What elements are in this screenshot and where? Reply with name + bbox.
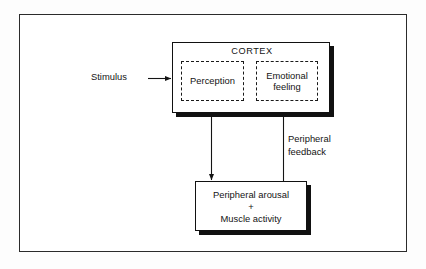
perception-label: Perception — [190, 75, 235, 87]
perception-box: Perception — [181, 61, 244, 101]
diagram-root: CORTEX Perception Emotional feeling Peri… — [0, 0, 426, 269]
plus-operator: + — [248, 201, 253, 212]
emotional-feeling-label: Emotional feeling — [266, 70, 308, 93]
peripheral-arousal-label: Peripheral arousal — [213, 188, 289, 201]
stimulus-label: Stimulus — [91, 71, 127, 83]
peripheral-feedback-label: Peripheral feedback — [288, 133, 331, 158]
cortex-label: CORTEX — [173, 46, 331, 57]
emotional-feeling-box: Emotional feeling — [256, 61, 318, 101]
peripheral-arousal-box: Peripheral arousal + Muscle activity — [195, 181, 307, 231]
muscle-activity-label: Muscle activity — [221, 212, 282, 225]
